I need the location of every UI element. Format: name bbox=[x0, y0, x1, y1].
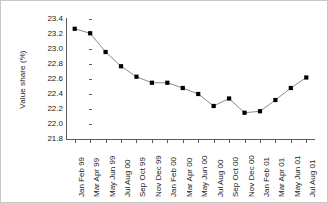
x-axis-tick-mark bbox=[260, 140, 261, 143]
x-axis-tick-mark bbox=[152, 140, 153, 143]
x-axis-tick-mark bbox=[245, 140, 246, 143]
x-axis-tick-mark bbox=[90, 140, 91, 143]
x-axis-tick-label-text: Mar Apr 99 bbox=[93, 158, 101, 197]
x-axis-tick-mark bbox=[106, 140, 107, 143]
x-axis-tick-labels: Jan Feb 99Mar Apr 99May Jun 99Jul Aug 00… bbox=[1, 1, 328, 203]
x-axis-tick-label-text: Sep Oct 00 bbox=[232, 157, 240, 197]
x-axis-tick-mark bbox=[214, 140, 215, 143]
x-axis-tick-label-text: Mar Apr 00 bbox=[186, 158, 194, 197]
x-axis-tick-label-text: Jul Aug 01 bbox=[309, 160, 317, 197]
x-axis-tick-mark bbox=[306, 140, 307, 143]
x-axis-tick-label-text: May Jun 01 bbox=[294, 156, 302, 197]
x-axis-tick-label-text: Jul Aug 00 bbox=[217, 160, 225, 197]
x-axis-tick-mark bbox=[183, 140, 184, 143]
x-axis-tick-mark bbox=[167, 140, 168, 143]
x-axis-tick-label-text: May Jun 00 bbox=[201, 156, 209, 197]
x-axis-tick-label-text: Nov Dec 00 bbox=[248, 155, 256, 197]
x-axis-tick-mark bbox=[291, 140, 292, 143]
x-axis-tick-mark bbox=[198, 140, 199, 143]
x-axis-tick-label-text: Jan Feb 00 bbox=[170, 157, 178, 197]
x-axis-tick-mark bbox=[121, 140, 122, 143]
x-axis-tick-label-text: Jul Aug 00 bbox=[124, 160, 132, 197]
x-axis-tick-label-text: May Jun 99 bbox=[109, 156, 117, 197]
x-axis-tick-mark bbox=[136, 140, 137, 143]
x-axis-tick-label-text: Jan Feb 99 bbox=[78, 157, 86, 197]
x-axis-tick-label-text: Nov Dec 99 bbox=[155, 155, 163, 197]
x-axis-tick-mark bbox=[75, 140, 76, 143]
x-axis-tick-label-text: Jan Feb 01 bbox=[263, 157, 271, 197]
x-axis-tick-label-text: Mar Apr 01 bbox=[278, 158, 286, 197]
x-axis-tick-mark bbox=[229, 140, 230, 143]
chart-figure: Value share (%) 23.423.223.022.822.622.4… bbox=[0, 0, 328, 203]
x-axis-tick-mark bbox=[275, 140, 276, 143]
x-axis-tick-label-text: Sep Oct 99 bbox=[139, 157, 147, 197]
